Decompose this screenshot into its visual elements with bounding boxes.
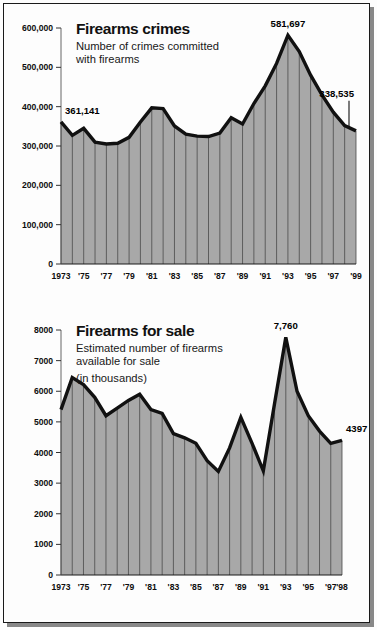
x-tick-label: '83 — [168, 582, 180, 592]
x-tick-label: '75 — [78, 271, 90, 281]
y-tick-label: 1000 — [34, 539, 53, 549]
annotation-label: 338,535 — [319, 88, 354, 99]
annotation-label: 7,760 — [274, 320, 298, 331]
x-tick-label: 1973 — [51, 271, 70, 281]
x-tick-label: '95 — [302, 582, 314, 592]
x-tick-label: '81 — [145, 582, 157, 592]
x-tick-label: '91 — [259, 271, 271, 281]
y-tick-label: 8000 — [34, 325, 53, 335]
x-tick-label: '93 — [282, 271, 294, 281]
x-axis-ticks: 1973'75'77'79'81'83'85'87'89'91'93'95'97… — [51, 271, 362, 281]
y-tick-label: 5000 — [34, 417, 53, 427]
x-tick-label: '87 — [214, 271, 226, 281]
y-axis-ticks: 0100,000200,000300,000400,000500,000600,… — [22, 23, 61, 269]
y-tick-label: 2000 — [34, 509, 53, 519]
y-tick-label: 300,000 — [22, 141, 53, 151]
x-tick-label: '99 — [350, 271, 362, 281]
infographic-page: 0100,000200,000300,000400,000500,000600,… — [0, 0, 377, 630]
y-tick-label: 400,000 — [22, 102, 53, 112]
firearms-for-sale-chart: 0100020003000400050006000700080001973'75… — [4, 312, 371, 620]
y-tick-label: 500,000 — [22, 62, 53, 72]
area-fill — [61, 337, 342, 575]
x-axis-ticks: 1973'75'77'79'81'83'85'87'89'91'93'95'97… — [51, 582, 348, 592]
x-tick-label: '91 — [258, 582, 270, 592]
x-tick-label: '89 — [237, 271, 249, 281]
chart-panel-firearms-crimes: 0100,000200,000300,000400,000500,000600,… — [4, 8, 369, 308]
annotation-label: 361,141 — [65, 105, 100, 116]
x-tick-label: '87 — [213, 582, 225, 592]
y-tick-label: 6000 — [34, 386, 53, 396]
x-tick-label: '81 — [146, 271, 158, 281]
y-tick-label: 600,000 — [22, 23, 53, 33]
x-tick-label: '98 — [336, 582, 348, 592]
x-tick-label: '93 — [280, 582, 292, 592]
infographic-frame: 0100,000200,000300,000400,000500,000600,… — [3, 3, 370, 623]
y-tick-label: 4000 — [34, 448, 53, 458]
y-tick-label: 100,000 — [22, 220, 53, 230]
y-tick-label: 7000 — [34, 356, 53, 366]
x-tick-label: '83 — [169, 271, 181, 281]
y-tick-label: 0 — [48, 259, 53, 269]
x-tick-label: '95 — [305, 271, 317, 281]
x-tick-label: '85 — [190, 582, 202, 592]
x-tick-label: '89 — [235, 582, 247, 592]
x-tick-label: '85 — [191, 271, 203, 281]
x-tick-label: '77 — [100, 582, 112, 592]
annotation-label: 4397 — [346, 423, 367, 434]
y-axis-ticks: 010002000300040005000600070008000 — [34, 325, 61, 580]
x-tick-label: '97 — [328, 271, 340, 281]
x-tick-label: 1973 — [51, 582, 70, 592]
y-tick-label: 200,000 — [22, 180, 53, 190]
firearms-crimes-chart: 0100,000200,000300,000400,000500,000600,… — [4, 8, 371, 308]
y-tick-label: 3000 — [34, 478, 53, 488]
x-tick-label: '77 — [101, 271, 113, 281]
chart-panel-firearms-for-sale: 0100020003000400050006000700080001973'75… — [4, 312, 369, 620]
annotation-label: 581,697 — [271, 18, 306, 29]
y-tick-label: 0 — [48, 570, 53, 580]
x-tick-label: '79 — [123, 582, 135, 592]
x-tick-label: '75 — [78, 582, 90, 592]
x-tick-label: '97 — [325, 582, 337, 592]
x-tick-label: '79 — [123, 271, 135, 281]
